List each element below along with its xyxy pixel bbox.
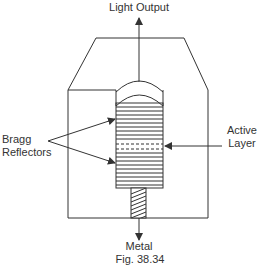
bragg-label-line1: Bragg (2, 133, 31, 146)
bragg-label-line2: Reflectors (2, 146, 52, 159)
active-label-line1: Active (224, 124, 260, 137)
metal-contact (131, 188, 146, 222)
lens-dome (116, 81, 163, 106)
bragg-stack (116, 103, 163, 188)
figure-caption: Fig. 38.34 (110, 253, 170, 266)
active-label-line2: Layer (224, 137, 260, 150)
bragg-arrow-top (48, 119, 115, 141)
light-output-label: Light Output (103, 1, 175, 14)
bragg-arrow-bottom (48, 141, 115, 163)
metal-label: Metal (117, 240, 161, 253)
